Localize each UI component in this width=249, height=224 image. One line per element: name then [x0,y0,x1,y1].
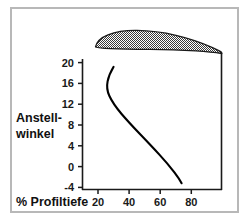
x-tick-label-20: 20 [92,196,104,208]
airfoil-shape [96,30,222,53]
data-curve-umschlagpunkt [107,67,181,183]
data-series-group [107,67,181,183]
chart-canvas: 20 16 12 8 4 0 -4 20 40 60 80 Anste [0,0,249,224]
x-tick-label-80: 80 [185,196,197,208]
figure-root: 20 16 12 8 4 0 -4 20 40 60 80 Anste [0,0,249,224]
axis-titles: Anstell- winkel % Profiltiefe [15,111,88,209]
x-tick-label-40: 40 [123,196,135,208]
airfoil-profile [96,30,222,53]
y-axis-tick-labels: 20 16 12 8 4 0 -4 [62,57,75,194]
plot-axes [82,53,222,190]
y-tick-label-16: 16 [62,77,74,89]
x-axis-tick-labels: 20 40 60 80 [92,196,198,208]
y-tick-label--4: -4 [64,181,75,193]
x-tick-label-60: 60 [154,196,166,208]
y-tick-label-0: 0 [68,161,74,173]
y-tick-label-8: 8 [68,119,74,131]
y-tick-label-20: 20 [62,57,74,69]
y-axis-title-line1: Anstell- [16,111,62,125]
y-tick-label-4: 4 [68,140,75,152]
y-axis-title-line2: winkel [15,127,54,141]
x-axis-title: % Profiltiefe [16,195,88,209]
y-tick-label-12: 12 [62,98,74,110]
